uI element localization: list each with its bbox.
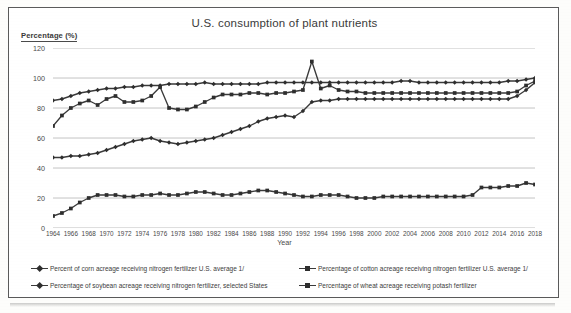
data-point — [355, 90, 359, 94]
legend-marker-diamond-icon — [31, 282, 48, 289]
data-point — [185, 140, 189, 144]
x-tick-label: 1990 — [278, 230, 292, 237]
data-point — [399, 195, 403, 199]
y-tick-label: 120 — [23, 44, 45, 53]
data-point — [346, 195, 350, 199]
data-point — [328, 193, 332, 197]
legend-marker-square-icon — [299, 265, 316, 272]
data-point — [319, 98, 323, 102]
data-point — [363, 97, 367, 101]
legend-label: Percentage of soybean acreage receiving … — [50, 282, 268, 289]
x-tick-label: 2008 — [439, 230, 453, 237]
legend-item[interactable]: Percent of corn acreage receiving nitrog… — [31, 265, 244, 272]
data-point — [390, 195, 394, 199]
x-tick-label: 1976 — [153, 230, 167, 237]
data-point — [265, 80, 269, 84]
data-point — [426, 97, 430, 101]
data-point — [212, 96, 216, 100]
data-point — [87, 99, 91, 103]
x-tick-label: 2004 — [403, 230, 417, 237]
data-point — [247, 82, 251, 86]
data-point — [78, 154, 82, 158]
data-point — [435, 91, 439, 95]
data-point — [462, 91, 466, 95]
legend-label: Percentage of cotton acreage receiving n… — [318, 265, 528, 272]
data-point — [221, 193, 225, 197]
data-point — [408, 79, 412, 83]
data-point — [363, 80, 367, 84]
data-point — [471, 91, 475, 95]
data-point — [444, 195, 448, 199]
x-tick-label: 1970 — [99, 230, 113, 237]
data-point — [158, 85, 162, 89]
data-point — [461, 97, 465, 101]
data-point — [506, 91, 510, 95]
data-point — [417, 195, 421, 199]
data-point — [194, 190, 198, 194]
data-point — [69, 94, 73, 98]
data-point — [176, 82, 180, 86]
data-point — [229, 82, 233, 86]
data-point — [194, 82, 198, 86]
data-point — [131, 85, 135, 89]
data-point — [230, 93, 234, 97]
data-point — [265, 189, 269, 193]
data-point — [238, 82, 242, 86]
data-point — [229, 130, 233, 134]
data-point — [140, 83, 144, 87]
legend-label: Percentage of wheat acreage receiving po… — [318, 282, 477, 289]
data-point — [426, 91, 430, 95]
data-point — [96, 103, 100, 107]
data-point — [211, 136, 215, 140]
x-tick-label: 2016 — [510, 230, 524, 237]
data-point — [497, 97, 501, 101]
data-point — [435, 195, 439, 199]
data-point — [480, 186, 484, 190]
data-point — [435, 80, 439, 84]
data-point — [185, 82, 189, 86]
data-point — [417, 91, 421, 95]
data-point — [149, 83, 153, 87]
data-point — [435, 97, 439, 101]
data-point — [489, 91, 493, 95]
data-point — [194, 105, 198, 109]
x-tick-label: 1974 — [135, 230, 149, 237]
chart-title: U.S. consumption of plant nutrients — [9, 17, 560, 29]
series-line — [53, 183, 535, 216]
data-point — [488, 80, 492, 84]
data-point — [60, 97, 64, 101]
legend-item[interactable]: Percentage of soybean acreage receiving … — [31, 282, 268, 289]
data-point — [497, 91, 501, 95]
data-point — [211, 82, 215, 86]
x-tick-label: 1998 — [349, 230, 363, 237]
data-point — [381, 195, 385, 199]
data-point — [283, 91, 287, 95]
y-tick-label: 80 — [23, 104, 45, 113]
x-axis-title: Year — [9, 238, 560, 247]
data-point — [453, 195, 457, 199]
data-point — [408, 91, 412, 95]
y-tick-label: 60 — [23, 134, 45, 143]
plot-area — [53, 48, 535, 228]
data-point — [336, 97, 340, 101]
data-point — [497, 80, 501, 84]
data-point — [105, 97, 109, 101]
data-point — [480, 91, 484, 95]
legend-item[interactable]: Percentage of wheat acreage receiving po… — [299, 282, 477, 289]
data-point — [95, 151, 99, 155]
data-point — [345, 97, 349, 101]
chart-plot-svg — [53, 48, 535, 228]
data-point — [131, 139, 135, 143]
data-point — [471, 193, 475, 197]
data-point — [69, 207, 73, 211]
legend-item[interactable]: Percentage of cotton acreage receiving n… — [299, 265, 528, 272]
data-point — [247, 124, 251, 128]
data-point — [140, 99, 144, 103]
data-point — [230, 193, 234, 197]
data-point — [203, 190, 207, 194]
data-point — [53, 98, 55, 102]
data-point — [417, 80, 421, 84]
data-point — [158, 192, 162, 196]
chart-frame: U.S. consumption of plant nutrients Perc… — [8, 7, 559, 298]
x-tick-label: 2012 — [474, 230, 488, 237]
